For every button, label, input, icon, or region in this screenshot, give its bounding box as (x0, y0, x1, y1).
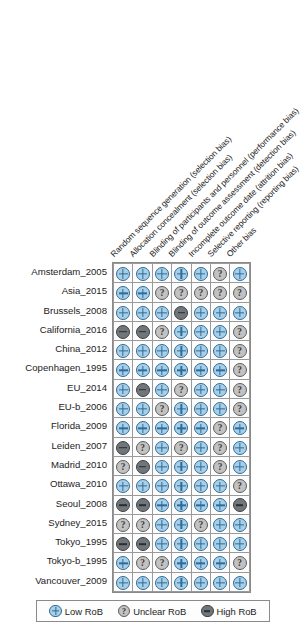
rob-cell-4-4 (191, 341, 210, 360)
unclear-rob-icon: ? (155, 325, 169, 339)
low-rob-icon (233, 576, 247, 590)
low-rob-icon (213, 383, 227, 397)
legend-item-unclear: ?Unclear RoB (118, 605, 187, 618)
rob-cell-1-6: ? (230, 283, 249, 302)
rob-cell-13-3 (172, 514, 191, 533)
table-row: ? (114, 341, 250, 360)
rob-cell-5-0 (114, 360, 133, 379)
table-row: ? (114, 476, 250, 495)
rob-cell-12-5 (210, 495, 229, 514)
rob-cell-5-6: ? (230, 360, 249, 379)
risk-of-bias-summary-plot: Random sequence generation (selection bi… (0, 0, 306, 636)
rob-cell-14-4 (191, 534, 210, 553)
low-rob-icon (194, 363, 208, 377)
rob-cell-8-2 (152, 418, 171, 437)
low-rob-icon (194, 267, 208, 281)
rob-cell-7-5 (210, 399, 229, 418)
low-rob-icon (213, 402, 227, 416)
low-rob-icon (174, 460, 188, 474)
low-rob-icon (174, 363, 188, 377)
low-rob-icon (155, 383, 169, 397)
rob-cell-16-2 (152, 572, 171, 591)
rob-cell-5-5 (210, 360, 229, 379)
rob-cell-7-4 (191, 399, 210, 418)
low-rob-icon (116, 402, 130, 416)
rob-cell-12-2 (152, 495, 171, 514)
high-rob-icon (136, 383, 150, 397)
low-rob-icon (136, 267, 150, 281)
low-rob-icon (213, 306, 227, 320)
low-rob-icon (194, 479, 208, 493)
unclear-rob-icon: ? (213, 286, 227, 300)
rob-cell-2-1 (133, 302, 152, 321)
high-rob-icon (233, 498, 247, 512)
rob-cell-13-5 (210, 514, 229, 533)
rob-cell-4-5 (210, 341, 229, 360)
rob-cell-6-6: ? (230, 379, 249, 398)
rob-cell-4-6: ? (230, 341, 249, 360)
column-headers: Random sequence generation (selection bi… (0, 0, 306, 258)
rob-cell-8-5: ? (210, 418, 229, 437)
unclear-rob-icon: ? (213, 421, 227, 435)
table-row: ?? (114, 379, 250, 398)
table-row: ? (114, 360, 250, 379)
rob-cell-1-1 (133, 283, 152, 302)
low-rob-icon (213, 518, 227, 532)
low-rob-icon (194, 344, 208, 358)
rob-cell-6-5 (210, 379, 229, 398)
low-rob-icon (194, 402, 208, 416)
rob-cell-5-3 (172, 360, 191, 379)
low-rob-icon (194, 537, 208, 551)
study-label-0: Amsterdam_2005 (0, 262, 110, 281)
high-rob-icon (136, 325, 150, 339)
low-rob-icon (174, 537, 188, 551)
rob-cell-11-6: ? (230, 476, 249, 495)
table-row: ? (114, 418, 250, 437)
low-rob-icon (233, 421, 247, 435)
rob-cell-3-0 (114, 321, 133, 340)
table-row: ??? (114, 514, 250, 533)
unclear-rob-icon: ? (194, 286, 208, 300)
table-row (114, 534, 250, 553)
table-row (114, 572, 250, 591)
rob-cell-4-3 (172, 341, 191, 360)
rob-cell-4-2 (152, 341, 171, 360)
study-label-12: Seoul_2008 (0, 494, 110, 513)
low-rob-icon (155, 576, 169, 590)
unclear-rob-icon: ? (233, 556, 247, 570)
low-rob-icon (136, 363, 150, 377)
low-rob-icon (116, 267, 130, 281)
rob-cell-8-3 (172, 418, 191, 437)
rob-cell-14-3 (172, 534, 191, 553)
rob-cell-2-4 (191, 302, 210, 321)
low-rob-icon (194, 306, 208, 320)
rob-cell-2-5 (210, 302, 229, 321)
rob-cell-13-0: ? (114, 514, 133, 533)
legend-label-low: Low RoB (65, 606, 103, 617)
rob-cell-12-6 (230, 495, 249, 514)
rob-cell-6-1 (133, 379, 152, 398)
rob-cell-3-4 (191, 321, 210, 340)
rob-cell-8-4 (191, 418, 210, 437)
low-rob-icon (155, 537, 169, 551)
rob-cell-4-0 (114, 341, 133, 360)
rob-cell-10-6 (230, 456, 249, 475)
rob-cell-16-1 (133, 572, 152, 591)
low-rob-icon (155, 363, 169, 377)
rob-cell-3-3 (172, 321, 191, 340)
low-rob-icon (155, 460, 169, 474)
study-label-14: Tokyo_1995 (0, 532, 110, 551)
rob-cell-0-6 (230, 264, 249, 283)
rob-cell-9-0 (114, 437, 133, 456)
rob-cell-12-1 (133, 495, 152, 514)
rob-cell-11-2 (152, 476, 171, 495)
low-rob-icon (194, 556, 208, 570)
unclear-rob-icon: ? (233, 383, 247, 397)
low-rob-icon (233, 537, 247, 551)
low-rob-icon (116, 306, 130, 320)
low-rob-icon (174, 518, 188, 532)
low-rob-icon (116, 383, 130, 397)
low-rob-icon (213, 344, 227, 358)
unclear-rob-icon: ? (136, 441, 150, 455)
table-row: ?? (114, 456, 250, 475)
